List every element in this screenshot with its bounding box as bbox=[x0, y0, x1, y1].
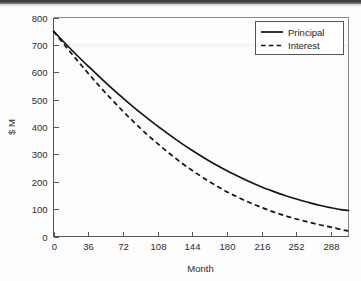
y-tick-label: 700 bbox=[32, 40, 48, 51]
x-tick-label: 36 bbox=[83, 241, 94, 252]
y-tick-label: 100 bbox=[32, 204, 48, 215]
y-tick-label: 0 bbox=[42, 232, 47, 243]
data-series-layer bbox=[54, 31, 349, 231]
y-axis-title: $ M bbox=[6, 119, 17, 135]
x-tick-label: 252 bbox=[289, 241, 305, 252]
x-tick-label: 216 bbox=[255, 241, 271, 252]
x-axis-ticks: 03672108144180216252288 bbox=[52, 232, 340, 252]
legend-label-principal: Principal bbox=[288, 27, 324, 38]
screenshot-root: 0100200300400500600700800 03672108144180… bbox=[0, 0, 361, 281]
line-chart: 0100200300400500600700800 03672108144180… bbox=[0, 0, 361, 281]
y-axis-ticks: 0100200300400500600700800 bbox=[32, 13, 59, 243]
y-tick-label: 300 bbox=[32, 149, 48, 160]
y-tick-label: 200 bbox=[32, 177, 48, 188]
legend-label-interest: Interest bbox=[288, 40, 320, 51]
x-tick-label: 288 bbox=[324, 241, 340, 252]
x-tick-label: 180 bbox=[220, 241, 236, 252]
x-tick-label: 108 bbox=[151, 241, 167, 252]
y-tick-label: 600 bbox=[32, 67, 48, 78]
y-tick-label: 800 bbox=[32, 13, 48, 24]
y-tick-label: 400 bbox=[32, 122, 48, 133]
x-tick-label: 144 bbox=[185, 241, 201, 252]
chart-legend[interactable]: Principal Interest bbox=[256, 22, 344, 55]
x-tick-label: 0 bbox=[52, 241, 57, 252]
x-axis-title: Month bbox=[187, 263, 213, 274]
series-line-principal bbox=[54, 31, 349, 210]
y-tick-label: 500 bbox=[32, 95, 48, 106]
x-tick-label: 72 bbox=[118, 241, 129, 252]
